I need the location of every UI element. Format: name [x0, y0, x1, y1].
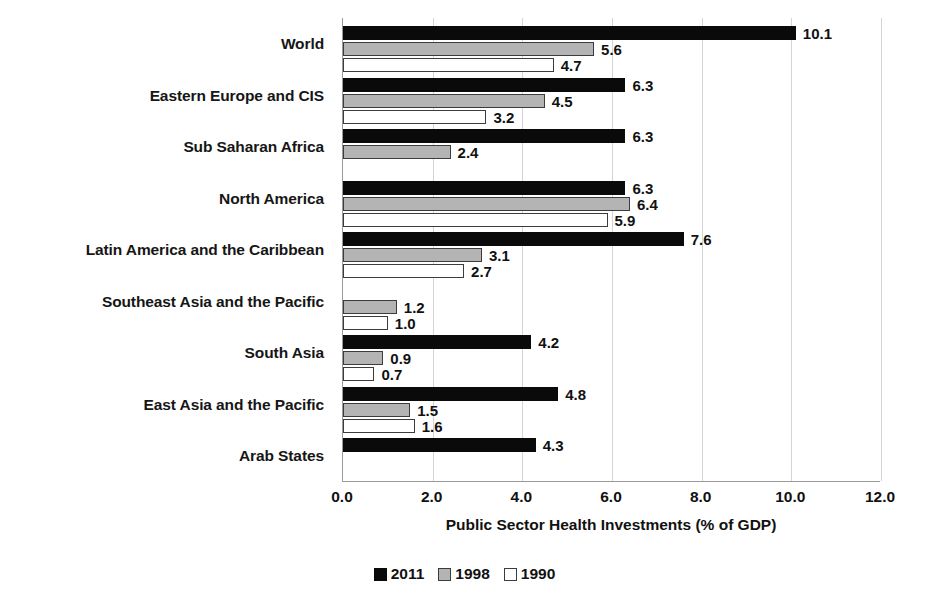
- bar-2011: [343, 26, 796, 40]
- x-tick-label: 4.0: [511, 488, 533, 506]
- bar-row: 7.6: [343, 232, 880, 246]
- bar-value-label: 2.4: [458, 145, 479, 160]
- bar-value-label: 3.2: [493, 109, 514, 124]
- bar-value-label: 2.7: [471, 264, 492, 279]
- white-outline-square-icon: [504, 568, 517, 581]
- bar-row: 1.5: [343, 403, 880, 417]
- bar-1990: [343, 367, 374, 381]
- bar-row: 4.7: [343, 58, 880, 72]
- bar-row: 5.9: [343, 213, 880, 227]
- category-label: East Asia and the Pacific: [144, 397, 324, 413]
- bar-value-label: 0.7: [381, 367, 402, 382]
- grey-filled-square-icon: [438, 568, 451, 581]
- bar-1990: [343, 316, 388, 330]
- gridline: [881, 18, 882, 481]
- category-label: World: [281, 36, 324, 52]
- bar-row: 5.6: [343, 42, 880, 56]
- x-tick-label: 0.0: [331, 488, 353, 506]
- category-axis-labels: WorldEastern Europe and CISSub Saharan A…: [0, 18, 332, 482]
- bar-row: 4.3: [343, 438, 880, 452]
- bar-value-label: 3.1: [489, 248, 510, 263]
- chart-legend: 201119981990: [0, 565, 929, 583]
- x-tick-label: 12.0: [865, 488, 895, 506]
- bar-value-label: 6.4: [637, 196, 658, 211]
- bar-group: 4.20.90.7: [343, 335, 880, 383]
- bar-value-label: 10.1: [803, 26, 832, 41]
- bar-group: 10.15.64.7: [343, 26, 880, 74]
- bar-value-label: 5.9: [615, 212, 636, 227]
- legend-item-1990[interactable]: 1990: [504, 565, 555, 583]
- category-label: North America: [219, 191, 324, 207]
- bar-value-label: 7.6: [691, 232, 712, 247]
- bar-2011: [343, 78, 625, 92]
- bar-1998: [343, 248, 482, 262]
- category-label: South Asia: [245, 345, 324, 361]
- bar-group: 4.81.51.6: [343, 387, 880, 435]
- bar-row: 4.5: [343, 94, 880, 108]
- bar-group: 6.34.53.2: [343, 78, 880, 126]
- bar-value-label: 6.3: [632, 129, 653, 144]
- bar-group: 4.3: [343, 438, 880, 486]
- bar-row: 6.4: [343, 197, 880, 211]
- x-axis-tick-labels: 0.02.04.06.08.010.012.0: [342, 488, 880, 514]
- bar-value-label: 0.9: [390, 351, 411, 366]
- legend-label: 2011: [391, 565, 425, 583]
- bar-row: 0.7: [343, 367, 880, 381]
- bar-value-label: 4.5: [552, 93, 573, 108]
- bar-row: 10.1: [343, 26, 880, 40]
- bar-2011: [343, 129, 625, 143]
- legend-item-1998[interactable]: 1998: [438, 565, 489, 583]
- bar-value-label: 5.6: [601, 42, 622, 57]
- legend-label: 1990: [521, 565, 555, 583]
- bar-row: [343, 470, 880, 484]
- bar-1998: [343, 300, 397, 314]
- bar-1990: [343, 264, 464, 278]
- x-tick-label: 10.0: [775, 488, 805, 506]
- bar-group: 6.32.4: [343, 129, 880, 177]
- category-label: Sub Saharan Africa: [183, 139, 324, 155]
- bar-row: 1.2: [343, 300, 880, 314]
- bar-1998: [343, 42, 594, 56]
- bar-2011: [343, 438, 536, 452]
- category-label: Southeast Asia and the Pacific: [102, 294, 324, 310]
- bar-1998: [343, 94, 545, 108]
- legend-label: 1998: [455, 565, 489, 583]
- bar-1990: [343, 58, 554, 72]
- bar-1998: [343, 197, 630, 211]
- bar-2011: [343, 181, 625, 195]
- x-tick-label: 8.0: [690, 488, 712, 506]
- bar-value-label: 1.0: [395, 315, 416, 330]
- bar-1998: [343, 351, 383, 365]
- bar-group: 1.21.0: [343, 284, 880, 332]
- bar-row: 6.3: [343, 181, 880, 195]
- category-label: Eastern Europe and CIS: [150, 88, 324, 104]
- plot-area: 10.15.64.76.34.53.26.32.46.36.45.97.63.1…: [342, 18, 880, 482]
- bar-1990: [343, 110, 486, 124]
- bar-2011: [343, 387, 558, 401]
- category-label: Arab States: [239, 448, 324, 464]
- bar-value-label: 6.3: [632, 77, 653, 92]
- bar-row: 4.8: [343, 387, 880, 401]
- bar-group: 7.63.12.7: [343, 232, 880, 280]
- black-filled-square-icon: [374, 568, 387, 581]
- bar-1990: [343, 419, 415, 433]
- bar-2011: [343, 335, 531, 349]
- bar-1998: [343, 145, 451, 159]
- bar-group: 6.36.45.9: [343, 181, 880, 229]
- bar-row: 2.4: [343, 145, 880, 159]
- x-axis-title: Public Sector Health Investments (% of G…: [342, 516, 880, 534]
- bar-row: 6.3: [343, 129, 880, 143]
- bar-row: 3.1: [343, 248, 880, 262]
- bar-row: 4.2: [343, 335, 880, 349]
- bar-value-label: 1.6: [422, 418, 443, 433]
- bar-1998: [343, 403, 410, 417]
- bar-value-label: 4.2: [538, 335, 559, 350]
- bar-row: 0.9: [343, 351, 880, 365]
- bar-value-label: 4.7: [561, 58, 582, 73]
- bar-row: 2.7: [343, 264, 880, 278]
- legend-item-2011[interactable]: 2011: [374, 565, 425, 583]
- bar-value-label: 1.2: [404, 299, 425, 314]
- bar-row: 3.2: [343, 110, 880, 124]
- category-label: Latin America and the Caribbean: [86, 242, 324, 258]
- bar-value-label: 4.3: [543, 438, 564, 453]
